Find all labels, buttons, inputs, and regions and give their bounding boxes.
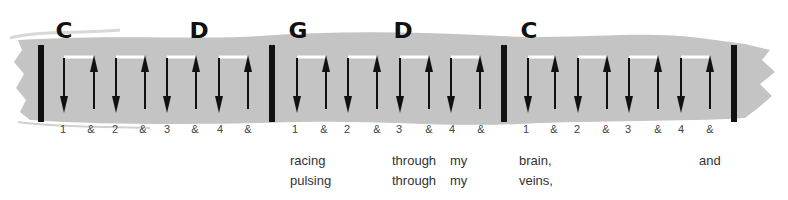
down-strum-arrow-icon — [60, 58, 68, 113]
down-strum-arrow-icon — [112, 58, 120, 113]
beat-count: 4 — [217, 123, 223, 135]
lyric-word: through — [392, 173, 436, 188]
lyric-word: through — [392, 153, 436, 168]
strumming-diagram: CDGDC 1&2&3&4&1&2&3&4&1&2&3&4& racingthr… — [0, 0, 788, 200]
up-strum-arrow-icon — [654, 55, 662, 109]
beat-count: 2 — [574, 123, 580, 135]
beat-count: & — [602, 123, 609, 135]
beat-count: & — [244, 123, 251, 135]
up-strum-arrow-icon — [322, 55, 330, 109]
lyric-word: my — [450, 173, 467, 188]
down-strum-arrow-icon — [396, 58, 404, 113]
lyric-word: racing — [290, 153, 325, 168]
beat-count: & — [87, 123, 94, 135]
up-strum-arrow-icon — [706, 55, 714, 109]
up-strum-arrow-icon — [244, 55, 252, 109]
beat-count: & — [550, 123, 557, 135]
beat-count: & — [139, 123, 146, 135]
up-strum-arrow-icon — [373, 55, 381, 109]
up-strum-arrow-icon — [192, 55, 200, 109]
down-strum-arrow-icon — [293, 58, 301, 113]
strum-arrows — [0, 0, 788, 200]
beat-count: & — [320, 123, 327, 135]
lyric-word: veins, — [519, 173, 553, 188]
beat-count: 1 — [60, 123, 66, 135]
lyric-word: pulsing — [290, 173, 331, 188]
up-strum-arrow-icon — [141, 55, 149, 109]
beat-count: & — [706, 123, 713, 135]
beat-count: & — [373, 123, 380, 135]
lyric-word: my — [450, 153, 467, 168]
up-strum-arrow-icon — [425, 55, 433, 109]
up-strum-arrow-icon — [603, 55, 611, 109]
down-strum-arrow-icon — [447, 58, 455, 113]
up-strum-arrow-icon — [551, 55, 559, 109]
beat-count: 3 — [625, 123, 631, 135]
down-strum-arrow-icon — [344, 58, 352, 113]
down-strum-arrow-icon — [524, 58, 532, 113]
beat-count: 2 — [112, 123, 118, 135]
down-strum-arrow-icon — [215, 58, 223, 113]
down-strum-arrow-icon — [574, 58, 582, 113]
up-strum-arrow-icon — [90, 55, 98, 109]
beat-count: & — [654, 123, 661, 135]
beat-count: & — [191, 123, 198, 135]
beat-count: 2 — [344, 123, 350, 135]
beat-count: 3 — [164, 123, 170, 135]
beat-count: & — [425, 123, 432, 135]
beat-count: 4 — [449, 123, 455, 135]
lyric-word: and — [699, 153, 721, 168]
lyric-word: brain, — [519, 153, 552, 168]
up-strum-arrow-icon — [476, 55, 484, 109]
beat-count: 1 — [523, 123, 529, 135]
beat-count: 4 — [678, 123, 684, 135]
beat-count: 1 — [292, 123, 298, 135]
down-strum-arrow-icon — [625, 58, 633, 113]
down-strum-arrow-icon — [163, 58, 171, 113]
beat-count: 3 — [396, 123, 402, 135]
down-strum-arrow-icon — [677, 58, 685, 113]
beat-count: & — [477, 123, 484, 135]
